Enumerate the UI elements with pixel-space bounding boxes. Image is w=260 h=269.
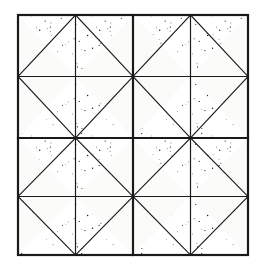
figure-root — [0, 0, 260, 269]
quilt-pattern-svg — [0, 0, 260, 269]
